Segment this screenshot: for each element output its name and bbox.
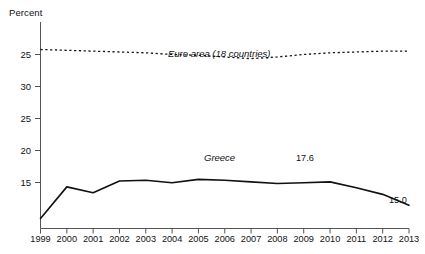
x-axis-ticks (41, 229, 410, 234)
y-axis-label-3: 20 (5, 146, 31, 156)
series-label-euro-area: Euro area (18 countries) (168, 48, 270, 59)
y-axis-label-2: 25 (5, 114, 31, 124)
data-label-2009: 17.6 (296, 153, 314, 163)
data-label-2013: 15.0 (389, 195, 407, 205)
y-axis-label-4: 15 (5, 178, 31, 188)
series-label-greece: Greece (204, 152, 235, 163)
y-axis-label-1: 30 (5, 82, 31, 92)
plot-area (0, 0, 425, 254)
chart-container: Percent 2530252015 199920002001200220032… (0, 0, 425, 254)
x-axis-label-2013: 2013 (392, 234, 425, 244)
y-axis-label-0: 25 (5, 50, 31, 60)
series-line-greece (41, 179, 410, 218)
y-axis-ticks (35, 55, 40, 183)
